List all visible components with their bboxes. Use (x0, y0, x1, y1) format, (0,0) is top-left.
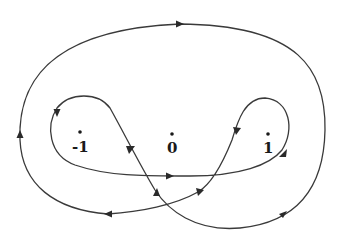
label-minus-one: -1 (72, 138, 89, 156)
point-one (266, 132, 270, 136)
point-minus-one (78, 130, 82, 134)
label-one: 1 (263, 139, 273, 157)
point-zero (170, 132, 174, 136)
label-zero: 0 (167, 139, 177, 157)
direction-arrows (17, 21, 288, 219)
arrow-left-up (17, 130, 24, 138)
contour-path (20, 24, 325, 228)
arrow-top (176, 21, 184, 28)
arrow-bottom-left (104, 211, 112, 218)
contour-diagram: -1 0 1 (0, 0, 343, 241)
arrow-middle-right (166, 173, 174, 180)
